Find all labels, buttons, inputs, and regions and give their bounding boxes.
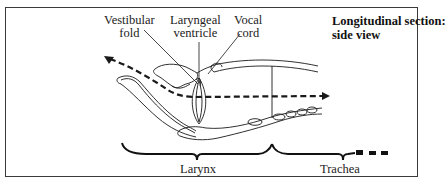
label-vocal-cord: Vocal cord [234, 14, 262, 40]
region-label-larynx: Larynx [180, 163, 216, 176]
label-laryngeal-ventricle: Laryngeal ventricle [170, 14, 221, 40]
arrowhead-right-icon [322, 92, 330, 100]
larynx-brace [122, 143, 272, 160]
trachea-brace [272, 144, 355, 160]
label-vestibular-fold: Vestibular fold [104, 14, 155, 40]
diagram-title: Longitudinal section: side view [332, 14, 446, 42]
vocal-cord-shape [192, 78, 206, 124]
trachea-continuation-dashes [356, 150, 388, 155]
region-label-trachea: Trachea [320, 163, 360, 176]
vestibular-fold-shape [154, 64, 212, 88]
upper-airway-wall [211, 60, 318, 72]
